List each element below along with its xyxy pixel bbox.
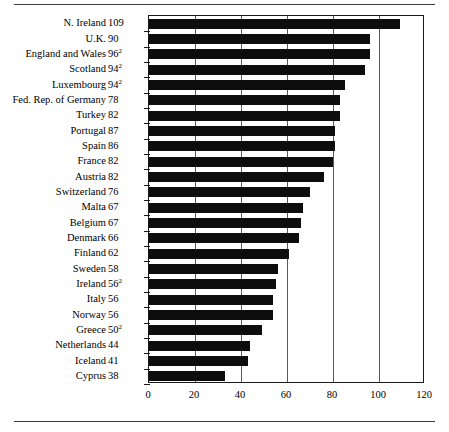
category-value: 962 bbox=[108, 46, 140, 61]
category-value: 41 bbox=[108, 353, 140, 368]
category-value: 56 bbox=[108, 291, 140, 306]
category-axis-labels: N. Ireland109U.K.90England and Wales962S… bbox=[0, 15, 142, 383]
x-tick-label-80: 80 bbox=[327, 388, 338, 402]
category-label-row: Switzerland76 bbox=[0, 184, 142, 199]
bar bbox=[149, 111, 340, 121]
category-value: 38 bbox=[108, 368, 140, 383]
category-name: Iceland bbox=[75, 353, 106, 368]
bar bbox=[149, 141, 335, 151]
x-tick-label-20: 20 bbox=[189, 388, 200, 402]
category-name: Ireland bbox=[76, 276, 106, 291]
bar bbox=[149, 341, 250, 351]
bar bbox=[149, 95, 340, 105]
bar bbox=[149, 19, 400, 29]
category-value: 58 bbox=[108, 261, 140, 276]
bar bbox=[149, 203, 303, 213]
category-name: Norway bbox=[72, 307, 106, 322]
category-value: 942 bbox=[108, 61, 140, 76]
x-tick-label-60: 60 bbox=[281, 388, 292, 402]
category-label-row: Denmark66 bbox=[0, 230, 142, 245]
category-value: 67 bbox=[108, 215, 140, 230]
x-tick-label-100: 100 bbox=[370, 388, 386, 402]
category-label-row: N. Ireland109 bbox=[0, 15, 142, 30]
category-label-row: Italy56 bbox=[0, 291, 142, 306]
footnote-marker: 2 bbox=[119, 322, 123, 330]
category-value: 562 bbox=[108, 276, 140, 291]
category-name: Italy bbox=[87, 291, 106, 306]
category-name: Fed. Rep. of Germany bbox=[12, 92, 106, 107]
category-name: Malta bbox=[82, 199, 107, 214]
category-label-row: England and Wales962 bbox=[0, 46, 142, 61]
category-value: 86 bbox=[108, 138, 140, 153]
footnote-marker: 2 bbox=[119, 62, 123, 70]
bar bbox=[149, 233, 299, 243]
bottom-rule bbox=[14, 421, 435, 422]
category-value: 62 bbox=[108, 245, 140, 260]
bar bbox=[149, 264, 278, 274]
category-name: U.K. bbox=[86, 31, 106, 46]
category-label-row: Belgium67 bbox=[0, 215, 142, 230]
category-label-row: Iceland41 bbox=[0, 353, 142, 368]
bar bbox=[149, 172, 324, 182]
category-label-row: Portugal87 bbox=[0, 123, 142, 138]
category-name: England and Wales bbox=[25, 46, 106, 61]
category-label-row: Fed. Rep. of Germany78 bbox=[0, 92, 142, 107]
bar bbox=[149, 157, 333, 167]
bar-series bbox=[149, 16, 423, 382]
bar bbox=[149, 34, 370, 44]
category-label-row: Luxembourg942 bbox=[0, 77, 142, 92]
category-label-row: Spain86 bbox=[0, 138, 142, 153]
category-name: Cyprus bbox=[76, 368, 106, 383]
category-name: Denmark bbox=[67, 230, 106, 245]
top-rule bbox=[14, 4, 435, 5]
category-name: Turkey bbox=[76, 107, 106, 122]
category-label-row: France82 bbox=[0, 153, 142, 168]
category-label-row: Netherlands44 bbox=[0, 337, 142, 352]
x-tick-label-120: 120 bbox=[416, 388, 432, 402]
bar bbox=[149, 310, 273, 320]
category-label-row: Austria82 bbox=[0, 169, 142, 184]
category-value: 82 bbox=[108, 153, 140, 168]
category-value: 109 bbox=[108, 15, 140, 30]
bar bbox=[149, 325, 262, 335]
bar bbox=[149, 49, 370, 59]
bar bbox=[149, 371, 225, 381]
category-label-row: Ireland562 bbox=[0, 276, 142, 291]
bar bbox=[149, 218, 301, 228]
category-value: 76 bbox=[108, 184, 140, 199]
category-name: Scotland bbox=[69, 61, 106, 76]
x-tick-label-40: 40 bbox=[235, 388, 246, 402]
category-name: Greece bbox=[76, 322, 106, 337]
x-tick-label-0: 0 bbox=[145, 388, 150, 402]
x-axis-tick-labels: 020406080100120 bbox=[148, 388, 424, 404]
category-name: Finland bbox=[74, 245, 106, 260]
category-name: France bbox=[77, 153, 106, 168]
bar bbox=[149, 65, 365, 75]
category-name: N. Ireland bbox=[63, 15, 106, 30]
category-value: 44 bbox=[108, 337, 140, 352]
bar bbox=[149, 295, 273, 305]
category-value: 56 bbox=[108, 307, 140, 322]
category-name: Austria bbox=[75, 169, 106, 184]
category-name: Belgium bbox=[70, 215, 106, 230]
category-label-row: U.K.90 bbox=[0, 31, 142, 46]
category-name: Sweden bbox=[73, 261, 106, 276]
category-label-row: Greece502 bbox=[0, 322, 142, 337]
category-label-row: Turkey82 bbox=[0, 107, 142, 122]
category-value: 82 bbox=[108, 107, 140, 122]
category-value: 90 bbox=[108, 31, 140, 46]
plot-area bbox=[148, 15, 424, 383]
category-value: 67 bbox=[108, 199, 140, 214]
bar bbox=[149, 126, 335, 136]
bar bbox=[149, 80, 345, 90]
category-tick bbox=[144, 384, 150, 385]
category-label-row: Sweden58 bbox=[0, 261, 142, 276]
category-label-row: Finland62 bbox=[0, 245, 142, 260]
category-value: 82 bbox=[108, 169, 140, 184]
bar bbox=[149, 356, 248, 366]
footnote-marker: 2 bbox=[119, 77, 123, 85]
footnote-marker: 2 bbox=[119, 276, 123, 284]
bar bbox=[149, 249, 289, 259]
footnote-marker: 2 bbox=[119, 46, 123, 54]
category-name: Switzerland bbox=[56, 184, 106, 199]
